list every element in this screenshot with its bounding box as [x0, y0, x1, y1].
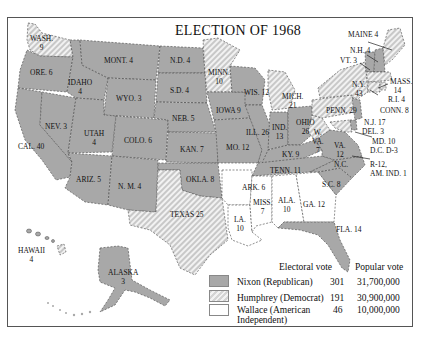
label-nev: NEV. 3: [45, 122, 67, 131]
hawaii-island: [52, 240, 55, 243]
legend-popular: 10,000,000: [357, 305, 400, 315]
label-nd: N.D. 4: [170, 56, 190, 65]
hawaii-island: [45, 237, 49, 240]
label-okla: OKLA. 8: [186, 175, 214, 184]
state-mass: [366, 72, 392, 82]
label-nh: N.H. 4: [350, 46, 370, 55]
legend-name: Wallace (AmericanIndependent): [237, 305, 310, 325]
legend-popular: 31,700,000: [357, 277, 400, 287]
hawaii-island: [36, 232, 41, 236]
label-ri: R.I. 4: [388, 95, 405, 104]
swatch-wallace: [209, 304, 229, 316]
swatch-humphrey: [209, 290, 229, 302]
label-conn: CONN. 8: [380, 106, 409, 115]
legend-name: Nixon (Republican): [237, 277, 313, 287]
label-nj: N.J. 17: [364, 118, 385, 127]
label-ky: KY. 9: [282, 150, 299, 159]
state-maine: [383, 28, 405, 65]
label-texas: TEXAS 25: [170, 210, 204, 219]
legend-row-humphrey: Humphrey (Democrat) 191 30,900,000: [205, 290, 410, 305]
label-maine: MAINE 4: [348, 30, 378, 39]
label-vt: VT. 3: [340, 56, 357, 65]
label-ala: ALA.10: [278, 196, 295, 214]
label-md: MD. 10: [372, 137, 395, 146]
label-nc: N.C.: [334, 160, 348, 169]
label-utah: UTAH4: [84, 129, 104, 147]
label-mont: MONT. 4: [104, 56, 133, 65]
label-mo: MO. 12: [226, 143, 249, 152]
legend-electoral: 191: [330, 293, 344, 303]
label-colo: COLO. 6: [124, 136, 152, 145]
label-ny: N.Y.43: [352, 80, 366, 98]
legend-popular: 30,900,000: [357, 293, 400, 303]
state-conn: [368, 82, 380, 92]
label-minn: MINN.10: [208, 68, 230, 86]
label-alaska: ALASKA3: [108, 268, 138, 286]
state-vt: [365, 52, 375, 72]
label-iowa: IOWA 9: [216, 106, 241, 115]
aleutian-islands: [47, 302, 91, 316]
label-hawaii: HAWAII4: [18, 246, 45, 264]
legend-row-nixon: Nixon (Republican) 301 31,700,000: [205, 274, 410, 289]
label-ind: IND.13: [272, 123, 287, 141]
label-wash: WASH.9: [30, 34, 53, 52]
label-ore: ORE. 6: [30, 68, 53, 77]
legend-electoral: 46: [333, 305, 343, 315]
label-ill: ILL. 26: [246, 128, 269, 137]
label-ark: ARK. 6: [242, 183, 265, 192]
label-wva: W.VA.7: [312, 128, 324, 155]
label-wis: WIS. 12: [244, 88, 269, 97]
label-mich: MICH.21: [282, 92, 303, 110]
label-miss: MISS.7: [253, 198, 272, 216]
label-ga: GA. 12: [303, 200, 325, 209]
label-cal: CAL. 40: [18, 142, 44, 151]
legend-name: Humphrey (Democrat): [237, 293, 324, 303]
legend-electoral-header: Electoral vote: [279, 262, 332, 272]
map-title: ELECTION OF 1968: [175, 23, 301, 39]
label-neb: NEB. 5: [172, 114, 195, 123]
label-nm: N. M. 4: [118, 182, 141, 191]
legend-row-wallace: Wallace (AmericanIndependent) 46 10,000,…: [205, 304, 410, 319]
label-dc: D.C. D-3: [370, 146, 398, 155]
label-wyo: WYO. 3: [116, 94, 141, 103]
label-tenn: TENN. 11: [270, 166, 301, 175]
swatch-nixon: [209, 275, 229, 287]
label-del: DEL. 3: [362, 127, 384, 136]
label-la: LA.10: [234, 215, 246, 233]
state-hawaii: [57, 244, 66, 255]
label-sc: S.C. 8: [322, 180, 341, 189]
label-va: VA.12: [334, 141, 346, 159]
label-sd: S.D. 4: [170, 86, 189, 95]
label-kan: KAN. 7: [180, 145, 204, 154]
hawaii-island: [27, 229, 32, 233]
legend-electoral: 301: [330, 277, 344, 287]
label-nc-note: R-12,AM. IND. 1: [370, 160, 407, 178]
label-fla: FLA. 14: [336, 225, 361, 234]
label-mass: MASS. 14: [390, 77, 412, 95]
state-nh: [374, 48, 385, 72]
label-ariz: ARIZ. 5: [76, 175, 101, 184]
label-idaho: IDAHO4: [68, 78, 92, 96]
label-penn: PENN. 29: [326, 106, 357, 115]
legend-popular-header: Popular vote: [355, 262, 403, 272]
